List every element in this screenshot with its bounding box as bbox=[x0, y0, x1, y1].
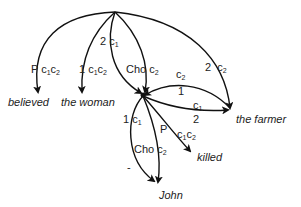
edge-label-believed: P c1c2 bbox=[31, 64, 60, 76]
edge-root-farmer bbox=[115, 12, 230, 108]
edge-label-farmer-low-tag: 2 bbox=[193, 114, 199, 125]
word-believed: believed bbox=[8, 97, 49, 108]
edge-label-john-1c1: 1 c1 bbox=[123, 114, 142, 126]
word-john: John bbox=[159, 190, 183, 201]
edge-label-cho-c2-top: Cho c2 bbox=[126, 64, 159, 76]
edge-label-killed-c1c2: c1c2 bbox=[177, 129, 196, 141]
edge-label-woman: 1 c1c2 bbox=[79, 64, 107, 76]
edge-label-killed-p: P bbox=[160, 124, 167, 135]
edge-label-farmer-top: 2 c2 bbox=[205, 62, 227, 74]
edge-label-farmer-mid-c2: c2 bbox=[176, 69, 185, 81]
edge-label-farmer-mid-tag: 1 bbox=[178, 86, 184, 97]
edge-hub-john-left bbox=[131, 96, 154, 181]
edge-label-john-cho-c2: Cho c2 bbox=[134, 144, 167, 156]
edge-root-woman bbox=[82, 12, 115, 92]
word-killed: killed bbox=[197, 152, 222, 163]
edge-label-2c1: 2 c1 bbox=[100, 36, 119, 48]
edge-label-farmer-low-c1: c1 bbox=[193, 100, 202, 112]
edge-hub-john-right bbox=[143, 96, 159, 182]
edge-hub-farmer-upper bbox=[145, 86, 230, 108]
word-the-farmer: the farmer bbox=[236, 114, 286, 125]
edge-root-hub-right bbox=[115, 12, 146, 92]
edge-hub-farmer-lower bbox=[143, 96, 228, 110]
edge-label-dash: - bbox=[127, 162, 131, 173]
word-the-woman: the woman bbox=[61, 97, 115, 108]
hub-node bbox=[141, 93, 146, 98]
